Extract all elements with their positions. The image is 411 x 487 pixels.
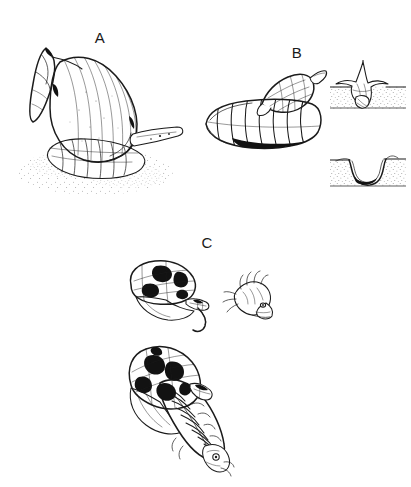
figure-canvas: A [0,0,411,487]
figure-root: A [0,0,411,487]
panel-c-label: C [201,234,212,251]
panel-a-label: A [95,29,105,46]
panel-b-label: B [292,44,302,61]
